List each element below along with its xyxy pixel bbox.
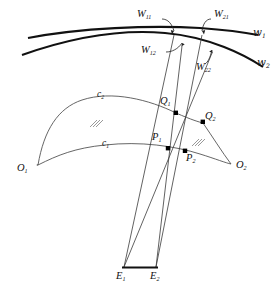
hatch-icon-left [90,120,103,127]
label-P2: P2 [186,153,195,164]
label-P1: P1 [152,132,161,143]
label-W12: W12 [141,45,156,56]
point-marker-p1 [166,146,170,150]
ray-e1-w22 [124,53,212,267]
diagram-svg [0,0,277,287]
leader-w11 [162,19,174,31]
hatch-icon-right [192,139,205,146]
label-E1: E1 [116,271,125,282]
leader-w12 [166,43,182,52]
label-O1: O1 [17,163,28,174]
label-wavefront-w2: w2 [257,57,270,68]
label-W21: W21 [214,9,229,20]
label-Q2: Q2 [205,111,216,122]
label-Q1: Q1 [160,96,171,107]
label-E2: E2 [150,271,159,282]
label-O2: O2 [236,160,247,171]
label-W22: W22 [196,62,211,73]
arrowhead-w21 [202,30,205,34]
space-curves [37,96,231,165]
label-curve-c1: c1 [102,139,109,149]
label-curve-c2: c2 [97,90,104,100]
curve-branch-q2-o2 [203,123,231,164]
figure-canvas: W11 W21 W12 W22 w1 w2 c2 c1 Q1 Q2 P1 P2 … [0,0,277,287]
label-wavefront-w1: w1 [253,27,266,38]
ray-e1-w11 [124,35,174,267]
point-marker-q1 [174,111,178,115]
space-curve-c1 [38,144,231,165]
label-W11: W11 [137,9,151,20]
